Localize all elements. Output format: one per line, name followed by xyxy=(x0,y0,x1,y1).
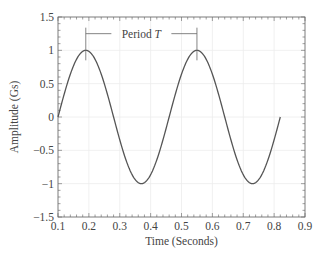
x-tick-label: 0.9 xyxy=(298,220,313,232)
period-label-symbol: T xyxy=(155,28,163,40)
y-tick-label: 0.5 xyxy=(40,78,55,90)
x-tick-label: 0.6 xyxy=(205,220,220,232)
y-tick-label: 1.5 xyxy=(40,11,55,23)
y-tick-label: −1 xyxy=(42,178,54,190)
y-tick-label: 1 xyxy=(48,44,54,56)
grid-lines xyxy=(58,17,305,217)
period-label: Period T xyxy=(122,28,163,40)
x-tick-label: 0.5 xyxy=(174,220,189,232)
x-tick-label: 0.3 xyxy=(113,220,128,232)
x-tick-label: 0.8 xyxy=(267,220,282,232)
x-tick-labels: 0.10.20.30.40.50.60.70.80.9 xyxy=(51,220,313,232)
y-axis-label: Amplitude (Gs) xyxy=(8,81,21,154)
period-annotation: Period T xyxy=(86,28,197,61)
x-tick-label: 0.2 xyxy=(82,220,97,232)
y-tick-labels: −1.5−1−0.500.511.5 xyxy=(33,11,54,223)
y-tick-label: −1.5 xyxy=(33,211,54,223)
x-axis-label: Time (Seconds) xyxy=(145,235,218,248)
sine-wave-chart: 0.10.20.30.40.50.60.70.80.9 −1.5−1−0.500… xyxy=(0,0,326,259)
y-tick-label: 0 xyxy=(48,111,54,123)
period-label-text: Period xyxy=(122,28,155,40)
x-tick-label: 0.7 xyxy=(236,220,251,232)
y-tick-label: −0.5 xyxy=(33,144,54,156)
x-tick-label: 0.4 xyxy=(143,220,158,232)
